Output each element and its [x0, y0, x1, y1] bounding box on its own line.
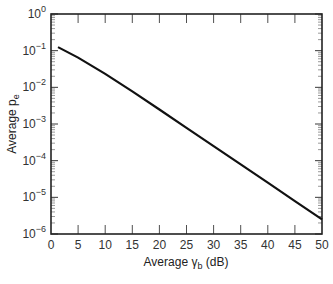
x-tick-label: 40	[261, 238, 275, 252]
plot-frame	[51, 14, 322, 234]
x-tick-label: 10	[99, 238, 113, 252]
x-tick-label: 45	[288, 238, 302, 252]
y-tick-label: 10−1	[22, 41, 46, 58]
y-tick-label: 10−6	[22, 224, 46, 241]
x-axis-label: Average γb (dB)	[144, 255, 229, 271]
x-tick-label: 30	[207, 238, 221, 252]
y-tick-labels: 10010−110−210−310−410−510−6	[22, 4, 46, 241]
major-ticks	[51, 14, 322, 234]
x-tick-labels: 05101520253035404550	[48, 238, 329, 252]
y-tick-label: 10−4	[22, 151, 46, 168]
x-tick-label: 15	[126, 238, 140, 252]
x-tick-label: 35	[234, 238, 248, 252]
x-tick-label: 25	[180, 238, 194, 252]
y-tick-label: 100	[28, 4, 46, 21]
y-tick-label: 10−5	[22, 187, 46, 204]
x-tick-label: 50	[315, 238, 329, 252]
x-tick-label: 5	[75, 238, 82, 252]
y-tick-label: 10−2	[22, 77, 46, 94]
x-tick-label: 0	[48, 238, 55, 252]
y-tick-label: 10−3	[22, 114, 46, 131]
x-tick-label: 20	[153, 238, 167, 252]
series-line	[58, 47, 322, 219]
chart: 10010−110−210−310−410−510−6 051015202530…	[0, 0, 333, 284]
y-axis-label: Average pe	[5, 94, 21, 154]
